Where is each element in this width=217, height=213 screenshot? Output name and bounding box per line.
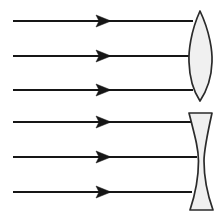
diagram-background	[0, 0, 217, 213]
optics-ray-diagram: Parallel rays incident on converging and…	[0, 0, 217, 213]
diagram-canvas	[0, 0, 217, 213]
